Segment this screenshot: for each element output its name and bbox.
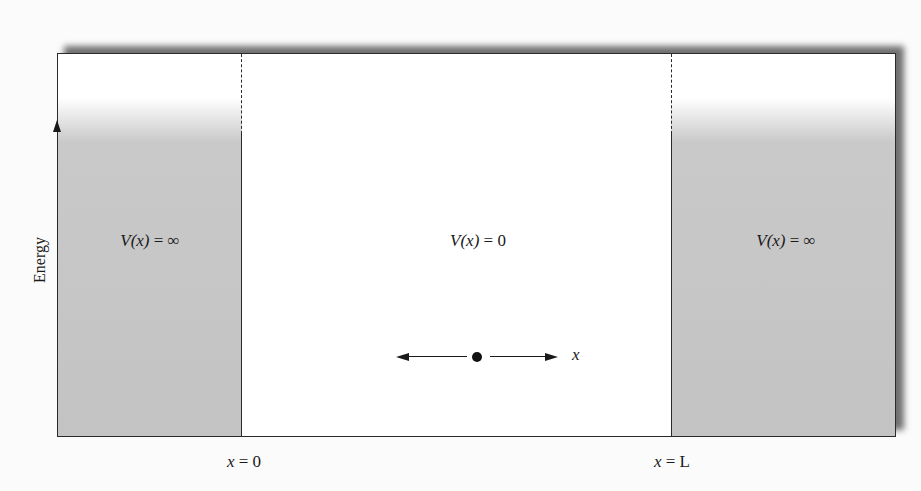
potential-value: = ∞ [790,231,816,250]
left-wall-potential-label: V(x) = ∞ [120,231,179,251]
potential-value: = ∞ [154,231,180,250]
boundary-value: = 0 [239,452,261,471]
arrow-right-shaft [490,356,550,357]
potential-symbol: V(x) [120,231,149,250]
x-variable: x [572,345,580,364]
arrow-left-shaft [405,356,467,357]
boundary-label-x0: x = 0 [227,452,261,472]
arrow-right-icon [545,353,558,361]
potential-symbol: V(x) [450,231,479,250]
potential-value: = 0 [484,231,506,250]
potential-symbol: V(x) [756,231,785,250]
energy-axis [57,53,58,436]
well-interior-potential-label: V(x) = 0 [450,231,506,251]
right-wall-boundary-line [671,134,672,436]
arrow-left-icon [396,353,409,361]
particle-dot [472,352,482,362]
left-wall-boundary-line [241,134,242,436]
right-wall-potential-label: V(x) = ∞ [756,231,815,251]
boundary-value: = L [666,452,690,471]
energy-axis-arrow-icon [53,120,61,132]
boundary-label-xL: x = L [654,452,690,472]
energy-axis-label: Energy [31,237,49,283]
left-wall-dashed-extension [241,54,242,134]
x-variable: x [654,452,662,471]
x-variable: x [227,452,235,471]
right-wall-dashed-extension [671,54,672,134]
particle-direction-label: x [572,345,580,365]
